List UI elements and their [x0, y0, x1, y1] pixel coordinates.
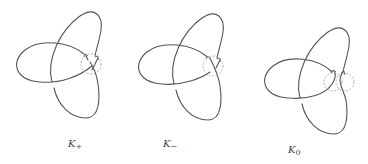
strand-lower-loop	[302, 72, 347, 134]
label-k-plus: K+	[68, 138, 82, 151]
knot-k-minus	[139, 14, 224, 120]
label-subscript: 0	[295, 148, 300, 157]
strand-left-loop	[139, 45, 210, 85]
knot-k-plus	[17, 12, 102, 118]
label-k-zero: K0	[288, 144, 301, 157]
strand-left-loop	[17, 43, 92, 83]
knot-k-zero	[265, 28, 354, 134]
label-k-minus: K−	[163, 138, 177, 151]
strand-left-loop	[265, 59, 336, 98]
strand-upper-loop	[173, 14, 224, 84]
crossing-over-strand	[216, 60, 220, 68]
crossing-over-strand	[92, 58, 98, 70]
crossing-under-strand	[86, 56, 88, 60]
strand-upper-loop	[51, 12, 102, 82]
label-subscript: +	[75, 142, 82, 151]
crossing-circle-right	[336, 73, 354, 91]
skein-diagram	[0, 0, 368, 164]
strand-lower-loop	[176, 58, 221, 120]
label-subscript: −	[170, 142, 177, 151]
